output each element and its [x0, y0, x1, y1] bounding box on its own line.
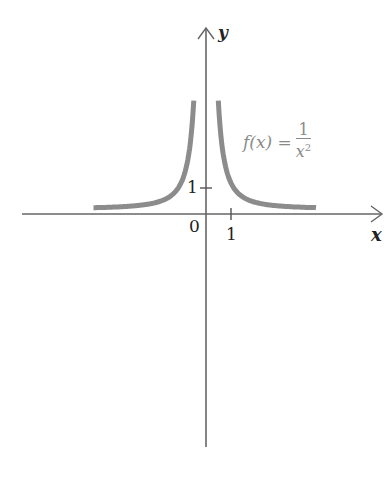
function-annotation: f(x) = 1 x2 [243, 122, 311, 161]
x-axis-label: x [371, 224, 382, 245]
curve-left-branch [94, 101, 194, 208]
fraction-numerator: 1 [296, 122, 310, 139]
function-prefix: f(x) = [243, 132, 292, 152]
origin-label: 0 [189, 216, 200, 236]
denominator-exponent: 2 [305, 142, 311, 153]
y-tick-label: 1 [187, 177, 198, 197]
y-axis-label: y [218, 22, 228, 42]
x-tick-label: 1 [226, 224, 237, 244]
function-fraction: 1 x2 [296, 122, 311, 161]
fraction-denominator: x2 [296, 139, 311, 161]
denominator-base: x [296, 142, 305, 161]
chart-canvas [0, 0, 389, 483]
